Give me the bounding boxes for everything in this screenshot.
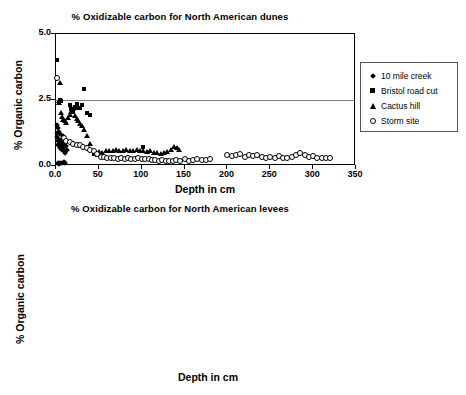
y-axis-tick-label: 0.0	[5, 160, 51, 169]
y-axis-tick-mark	[51, 33, 55, 34]
chart-levees-title: % Oxidizable carbon for North American l…	[0, 203, 360, 214]
x-axis-tick-label: 100	[118, 170, 164, 179]
data-point	[54, 75, 60, 81]
x-axis-tick-label: 150	[161, 170, 207, 179]
data-point	[82, 87, 86, 91]
x-axis-tick-mark	[141, 165, 142, 169]
x-axis-tick-label: 250	[246, 170, 292, 179]
filled-square-marker-icon	[366, 88, 379, 93]
x-axis-tick-label: 0.0	[32, 170, 78, 179]
data-point	[81, 127, 87, 132]
data-point	[88, 113, 92, 117]
y-axis-tick-label: 2.5	[5, 94, 51, 103]
data-point	[84, 133, 90, 138]
chart-levees-x-axis-label: Depth in cm	[58, 371, 358, 383]
filled-triangle-marker-icon	[366, 103, 379, 109]
chart-dunes-y-axis-label: % Organic carbon	[12, 60, 24, 150]
x-axis-tick-mark	[98, 165, 99, 169]
legend-label: 10 mile creek	[379, 71, 432, 81]
data-point	[207, 156, 213, 162]
data-point	[80, 103, 84, 107]
x-axis-tick-label: 50	[75, 170, 121, 179]
x-axis-tick-label: 300	[289, 170, 335, 179]
x-axis-tick-mark	[184, 165, 185, 169]
data-point	[70, 106, 76, 111]
y-axis-tick-mark	[51, 99, 55, 100]
legend-label: Cactus hill	[379, 101, 420, 111]
x-axis-tick-label: 350	[332, 170, 378, 179]
data-point	[57, 80, 63, 85]
data-point	[176, 147, 182, 152]
legend-item-cactus-hill: Cactus hill	[366, 98, 451, 113]
x-axis-tick-mark	[269, 165, 270, 169]
data-point	[63, 161, 69, 167]
data-point	[327, 155, 333, 161]
legend-item-storm-site: Storm site	[366, 113, 451, 128]
chart-dunes-x-axis-label: Depth in cm	[55, 183, 355, 195]
y-axis-tick-label: 5.0	[5, 28, 51, 37]
data-point	[63, 120, 69, 125]
chart-dunes-legend: 10 mile creek Bristol road cut Cactus hi…	[360, 62, 458, 132]
gridline	[56, 100, 354, 101]
filled-diamond-marker-icon	[366, 74, 379, 78]
x-axis-tick-label: 200	[203, 170, 249, 179]
legend-label: Storm site	[379, 116, 419, 126]
x-axis-tick-mark	[312, 165, 313, 169]
data-point	[55, 58, 59, 62]
x-axis-tick-mark	[355, 165, 356, 169]
chart-dunes: % Oxidizable carbon for North American d…	[0, 0, 466, 198]
open-circle-marker-icon	[366, 118, 379, 124]
x-axis-tick-mark	[55, 165, 56, 169]
data-point	[56, 100, 62, 105]
chart-dunes-plot-area	[55, 33, 355, 165]
x-axis-tick-mark	[226, 165, 227, 169]
legend-item-bristol-road-cut: Bristol road cut	[366, 83, 451, 98]
chart-dunes-title: % Oxidizable carbon for North American d…	[0, 11, 360, 22]
chart-levees: % Oxidizable carbon for North American l…	[0, 198, 466, 395]
legend-item-10-mile-creek: 10 mile creek	[366, 68, 451, 83]
chart-levees-y-axis-label: % Organic carbon	[14, 254, 26, 344]
legend-label: Bristol road cut	[379, 86, 438, 96]
